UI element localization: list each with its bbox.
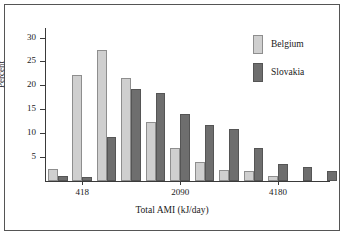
- y-tick-label: 5: [10, 152, 36, 161]
- belgium-swatch-icon: [253, 35, 263, 54]
- y-tick-label: 30: [10, 33, 36, 42]
- legend-item-belgium: Belgium: [253, 33, 333, 61]
- legend-label-belgium: Belgium: [271, 39, 304, 49]
- x-tick-mark: [278, 181, 279, 185]
- bar-belgium: [268, 176, 278, 181]
- bar-belgium: [244, 171, 254, 181]
- bar-belgium: [121, 78, 131, 181]
- bar-belgium: [219, 170, 229, 181]
- slovakia-swatch-icon: [253, 63, 263, 82]
- x-tick-label: 418: [62, 187, 102, 197]
- x-tick-mark: [180, 181, 181, 185]
- bar-slovakia: [327, 171, 337, 181]
- bar-belgium: [146, 122, 156, 181]
- x-axis-line: [45, 181, 330, 182]
- bar-belgium: [170, 148, 180, 181]
- x-tick-label: 2090: [160, 187, 200, 197]
- bar-slovakia: [205, 125, 215, 181]
- bar-belgium: [72, 75, 82, 181]
- bar-belgium: [195, 162, 205, 181]
- bar-slovakia: [278, 164, 288, 181]
- bar-slovakia: [303, 167, 313, 181]
- x-tick-label: 4180: [258, 187, 298, 197]
- y-tick-label: 10: [10, 128, 36, 137]
- legend-item-slovakia: Slovakia: [253, 61, 333, 89]
- bar-slovakia: [180, 114, 190, 181]
- chart-figure: 51015202530 41820904180 Percent Total AM…: [0, 0, 344, 235]
- y-axis-title: Percent: [0, 61, 6, 88]
- y-tick-label: 15: [10, 104, 36, 113]
- bar-belgium: [97, 50, 107, 181]
- y-tick-label: 25: [10, 56, 36, 65]
- x-axis-title: Total AMI (kJ/day): [0, 205, 344, 215]
- legend-label-slovakia: Slovakia: [271, 67, 304, 77]
- bar-slovakia: [254, 148, 264, 181]
- bar-slovakia: [156, 93, 166, 181]
- bar-slovakia: [131, 89, 141, 181]
- bar-slovakia: [58, 176, 68, 181]
- bar-belgium: [48, 169, 58, 181]
- bar-slovakia: [229, 129, 239, 181]
- chart-legend: Belgium Slovakia: [253, 33, 333, 89]
- bar-slovakia: [107, 137, 117, 181]
- x-tick-mark: [82, 181, 83, 185]
- y-tick-label: 20: [10, 80, 36, 89]
- bar-slovakia: [82, 177, 92, 181]
